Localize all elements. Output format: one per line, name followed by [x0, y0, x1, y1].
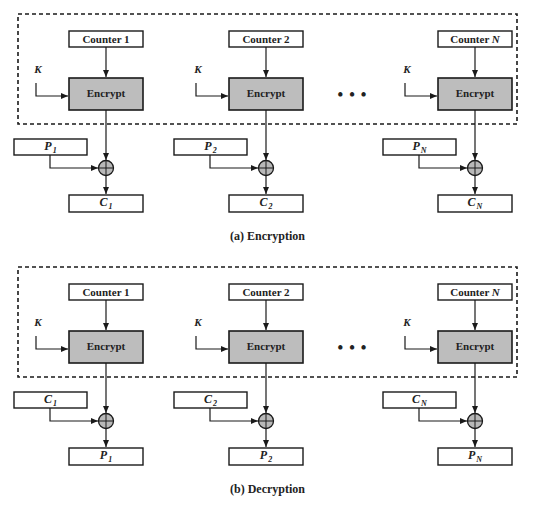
key-arrow: [405, 83, 437, 96]
key-arrow: [196, 83, 228, 96]
counter-label: Counter 2: [229, 284, 303, 300]
output-label: C2: [229, 195, 303, 210]
ctr-mode-diagram: Counter 1EncryptKP1C1Counter 2EncryptKP2…: [0, 0, 535, 505]
counter-label: Counter N: [438, 31, 512, 47]
output-label: C1: [69, 195, 143, 210]
panel-caption: (a) Encryption: [180, 229, 355, 244]
input-label: C2: [174, 392, 247, 407]
encrypt-label: Encrypt: [229, 87, 303, 99]
encrypt-label: Encrypt: [438, 87, 512, 99]
input-label: P2: [174, 139, 247, 154]
output-label: CN: [438, 195, 512, 210]
ellipsis: •••: [330, 86, 380, 104]
output-label: P2: [229, 448, 303, 463]
key-arrow: [196, 336, 228, 349]
counter-label: Counter 2: [229, 31, 303, 47]
counter-label: Counter N: [438, 284, 512, 300]
input-label: CN: [383, 392, 456, 407]
key-label: K: [401, 63, 413, 75]
diagram-lines: [0, 0, 535, 505]
encrypt-label: Encrypt: [229, 340, 303, 352]
key-label: K: [32, 316, 44, 328]
key-arrow: [405, 336, 437, 349]
panel-caption: (b) Decryption: [180, 482, 355, 497]
encrypt-label: Encrypt: [69, 87, 143, 99]
key-arrow: [36, 83, 68, 96]
encrypt-label: Encrypt: [438, 340, 512, 352]
input-label: PN: [383, 139, 456, 154]
key-label: K: [32, 63, 44, 75]
key-label: K: [192, 63, 204, 75]
input-label: C1: [14, 392, 87, 407]
counter-label: Counter 1: [69, 31, 143, 47]
encrypt-label: Encrypt: [69, 340, 143, 352]
counter-label: Counter 1: [69, 284, 143, 300]
key-arrow: [36, 336, 68, 349]
key-label: K: [401, 316, 413, 328]
ellipsis: •••: [330, 339, 380, 357]
output-label: PN: [438, 448, 512, 463]
input-label: P1: [14, 139, 87, 154]
output-label: P1: [69, 448, 143, 463]
key-label: K: [192, 316, 204, 328]
